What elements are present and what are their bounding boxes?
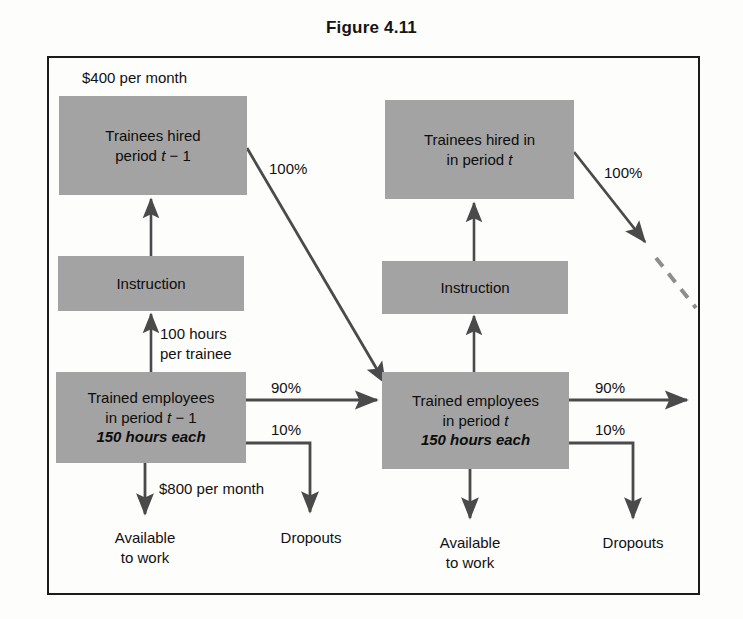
terminal-line-2: to work	[95, 548, 195, 568]
node-instruction-left: Instruction	[58, 256, 244, 311]
node-line-2: period t − 1	[115, 146, 190, 166]
figure-title: Figure 4.11	[0, 18, 743, 38]
node-label: Instruction	[116, 274, 185, 294]
label-10-percent-right: 10%	[595, 420, 625, 440]
terminal-line-1: Available	[95, 528, 195, 548]
label-hours-line-2: per trainee	[160, 344, 232, 364]
terminal-line-2: to work	[420, 553, 520, 573]
label-cost-per-trainee: $400 per month	[82, 68, 187, 88]
node-line-2: in period t − 1	[105, 408, 196, 428]
node-line-1: Trainees hired in	[424, 130, 535, 150]
label-10-percent-left: 10%	[271, 420, 301, 440]
figure-container: Figure 4.11	[0, 0, 743, 619]
terminal-dropouts-right: Dropouts	[585, 533, 681, 553]
node-line-1: Trained employees	[87, 388, 214, 408]
node-line-2: in period t	[443, 411, 509, 431]
label-hours-line-1: 100 hours	[160, 324, 232, 344]
node-line-1: Trained employees	[412, 391, 539, 411]
terminal-available-to-work-left: Available to work	[95, 528, 195, 567]
node-trained-employees-period-t: Trained employees in period t 150 hours …	[382, 372, 569, 469]
terminal-dropouts-left: Dropouts	[263, 528, 359, 548]
label-100-percent-left: 100%	[269, 159, 307, 179]
node-instruction-right: Instruction	[382, 261, 568, 314]
node-line-2: in period t	[447, 150, 513, 170]
node-line-3: 150 hours each	[96, 427, 205, 447]
node-trainees-hired-period-t-minus-1: Trainees hired period t − 1	[59, 96, 247, 195]
label-cost-per-trained-employee: $800 per month	[159, 479, 264, 499]
label-hours-per-trainee: 100 hours per trainee	[160, 324, 232, 363]
node-line-3: 150 hours each	[421, 430, 530, 450]
node-trained-employees-period-t-minus-1: Trained employees in period t − 1 150 ho…	[56, 372, 246, 463]
terminal-available-to-work-right: Available to work	[420, 533, 520, 572]
label-90-percent-right: 90%	[595, 378, 625, 398]
node-trainees-hired-period-t: Trainees hired in in period t	[385, 100, 574, 199]
node-line-1: Trainees hired	[105, 126, 200, 146]
terminal-line-1: Available	[420, 533, 520, 553]
label-90-percent-left: 90%	[271, 378, 301, 398]
node-label: Instruction	[440, 278, 509, 298]
label-100-percent-right: 100%	[604, 163, 642, 183]
